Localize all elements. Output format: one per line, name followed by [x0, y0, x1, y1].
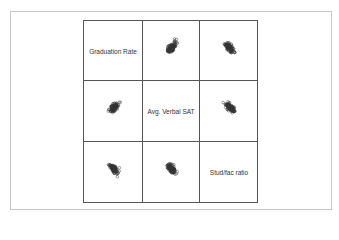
panel-0-1: [166, 38, 178, 54]
panel-0-2: [223, 41, 236, 54]
scatterplot-matrix: Graduation Rate Avg. Verbal SAT Stud/fac…: [83, 20, 258, 203]
panel-2-1: [166, 162, 179, 175]
panel-1-0: [107, 101, 122, 114]
panel-1-2: [222, 101, 237, 115]
panel-2-0: [107, 163, 121, 178]
scatter-points: [84, 21, 259, 204]
